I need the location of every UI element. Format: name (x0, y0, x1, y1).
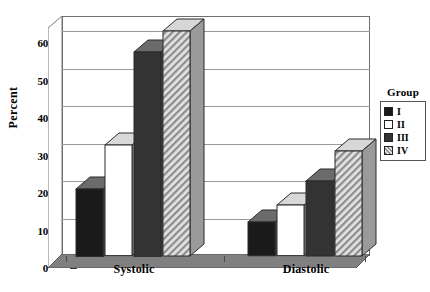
bar-diastolic-group-IV (335, 139, 376, 256)
x-axis-tick-mark (224, 256, 225, 262)
legend-item-label: III (397, 133, 409, 143)
x-axis-tick-label: Systolic (74, 262, 194, 277)
white-square-icon (384, 120, 393, 129)
legend-item: IV (384, 144, 421, 157)
plot-area (62, 16, 370, 256)
legend-title: Group (380, 86, 426, 98)
legend-item: I (384, 105, 421, 118)
y-axis-title: Percent (6, 53, 21, 163)
bar-systolic-group-IV (163, 19, 204, 256)
left-wall-3d (48, 16, 62, 256)
legend-item-label: IV (397, 146, 408, 156)
chart-container: Percent 0102030405060 SystolicDiastolic … (0, 0, 430, 292)
y-axis-tick-label: 10 (38, 225, 48, 237)
x-axis-tick-label: Diastolic (246, 262, 366, 277)
y-axis-tick-label: 20 (38, 187, 48, 199)
legend-item: III (384, 131, 421, 144)
legend: Group IIIIIIIV (380, 86, 426, 161)
x-axis-tick-mark (66, 256, 67, 262)
y-axis-tick-label: 30 (38, 150, 48, 162)
legend-box: IIIIIIIV (380, 101, 426, 161)
gridline (62, 31, 370, 32)
hatched-square-icon (384, 146, 393, 155)
x-axis-tick-mark (365, 256, 366, 262)
gridline (62, 106, 370, 107)
y-axis-tick-label: 50 (38, 75, 48, 87)
legend-item-label: II (397, 120, 405, 130)
gridline (62, 69, 370, 70)
black-square-icon (384, 107, 393, 116)
legend-item: II (384, 118, 421, 131)
legend-item-label: I (397, 107, 401, 117)
darkgray-square-icon (384, 133, 393, 142)
y-axis-tick-label: 40 (38, 112, 48, 124)
y-axis-tick-labels: 0102030405060 (22, 16, 48, 256)
y-axis-tick-label: 60 (38, 37, 48, 49)
